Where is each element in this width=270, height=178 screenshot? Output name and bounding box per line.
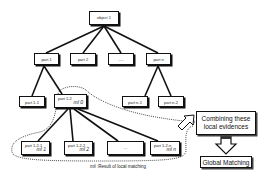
caption-text: :Result of local matching xyxy=(96,164,146,169)
ml-value: ml n xyxy=(167,147,176,152)
node-part-1-2: part 1-2 ml 0 xyxy=(54,94,87,108)
global-matching-label: Global Matching xyxy=(203,159,250,166)
node-label: part n xyxy=(147,58,170,62)
node-part-1-1: part 1-1 xyxy=(19,96,45,107)
node-label: ... xyxy=(108,146,143,150)
node-label: part 2 xyxy=(71,58,95,62)
ml-value: ml 0 xyxy=(74,100,83,105)
node-part-n-2: part n-2 xyxy=(158,96,184,107)
node-part-n-1: part n-1 xyxy=(122,96,148,107)
node-part-1-2-n: part 1-2-n ml n xyxy=(150,141,180,155)
node-label: part n-2 xyxy=(159,101,183,105)
node-object-1: object 1 xyxy=(89,11,119,25)
ml-value: ml 1 xyxy=(37,147,46,152)
up-right-arrow-icon xyxy=(178,115,194,130)
node-label: ..... xyxy=(109,58,133,62)
node-label: part 1-2 xyxy=(58,97,72,101)
node-label: part 1 xyxy=(35,58,58,62)
ml-value: ml 2 xyxy=(80,147,89,152)
node-label: part 1-1 xyxy=(20,101,44,105)
combining-evidences-box: Combining these local evidences xyxy=(196,111,256,135)
combine-line-1: Combining these xyxy=(197,115,255,123)
legend-caption: mli :Result of local matching xyxy=(90,164,146,169)
arrow-shadow xyxy=(221,136,231,139)
node-part-1: part 1 xyxy=(34,53,59,65)
node-part-1-2-ellipsis: ... xyxy=(107,141,144,155)
node-label: part n-1 xyxy=(123,101,147,105)
global-matching-box: Global Matching xyxy=(200,156,252,168)
node-part-n: part n xyxy=(146,53,171,65)
node-part-2: part 2 xyxy=(70,53,96,65)
node-part-ellipsis: ..... xyxy=(108,53,134,65)
node-label: object 1 xyxy=(90,16,118,20)
node-part-1-2-1: part 1-2-1 ml 1 xyxy=(21,141,50,155)
combine-line-2: local evidences xyxy=(197,123,255,131)
node-part-1-2-2: part 1-2-2 ml 2 xyxy=(64,141,93,155)
